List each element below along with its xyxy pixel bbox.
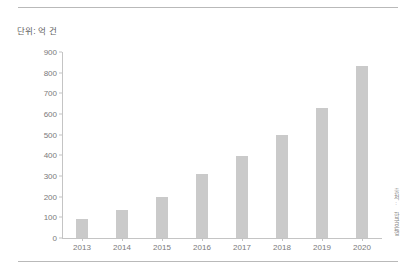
bar [196, 174, 208, 238]
x-tick-label: 2014 [113, 243, 131, 252]
plot-area: 0100200300400500600700800900 20132014201… [62, 52, 382, 238]
y-tick-label: 900 [44, 48, 57, 57]
bar [156, 197, 168, 238]
bar [116, 210, 128, 238]
y-tick-label: 800 [44, 68, 57, 77]
x-tick-mark [282, 238, 283, 241]
bar-slot [302, 52, 342, 238]
x-tick-label: 2018 [273, 243, 291, 252]
x-tick-label: 2020 [353, 243, 371, 252]
y-tick-mark [59, 52, 62, 53]
divider-bottom [18, 261, 398, 262]
bar-slot [262, 52, 302, 238]
bar-slot [62, 52, 102, 238]
y-tick-mark [59, 238, 62, 239]
bar [356, 66, 368, 238]
x-tick-mark [322, 238, 323, 241]
x-tick-mark [82, 238, 83, 241]
y-tick-label: 600 [44, 110, 57, 119]
x-tick-mark [122, 238, 123, 241]
x-tick-mark [162, 238, 163, 241]
y-tick-label: 0 [53, 234, 57, 243]
bar-slot [342, 52, 382, 238]
bar-slot [182, 52, 222, 238]
bar-series [62, 52, 382, 238]
x-tick-label: 2015 [153, 243, 171, 252]
divider-top [18, 7, 398, 8]
x-tick-label: 2013 [73, 243, 91, 252]
y-tick-mark [59, 176, 62, 177]
unit-label: 단위: 억 건 [17, 24, 57, 36]
x-axis-line [62, 238, 382, 239]
x-tick-mark [362, 238, 363, 241]
bar [76, 219, 88, 238]
chart-page: 단위: 억 건 0100200300400500600700800900 201… [0, 0, 416, 273]
y-tick-mark [59, 93, 62, 94]
y-tick-label: 200 [44, 192, 57, 201]
x-tick-label: 2017 [233, 243, 251, 252]
y-tick-mark [59, 72, 62, 73]
x-tick-label: 2016 [193, 243, 211, 252]
y-tick-mark [59, 134, 62, 135]
y-tick-mark [59, 196, 62, 197]
y-tick-label: 700 [44, 89, 57, 98]
y-tick-mark [59, 155, 62, 156]
y-tick-label: 100 [44, 213, 57, 222]
bar [276, 135, 288, 238]
bar [236, 156, 248, 238]
y-tick-label: 300 [44, 172, 57, 181]
x-tick-mark [242, 238, 243, 241]
bar-slot [222, 52, 262, 238]
y-tick-label: 500 [44, 130, 57, 139]
bar [316, 108, 328, 238]
bar-slot [142, 52, 182, 238]
x-tick-label: 2019 [313, 243, 331, 252]
y-tick-label: 400 [44, 151, 57, 160]
bar-slot [102, 52, 142, 238]
y-tick-mark [59, 217, 62, 218]
y-tick-mark [59, 114, 62, 115]
source-caption: 출처: 한국은행 [392, 188, 399, 236]
x-tick-mark [202, 238, 203, 241]
